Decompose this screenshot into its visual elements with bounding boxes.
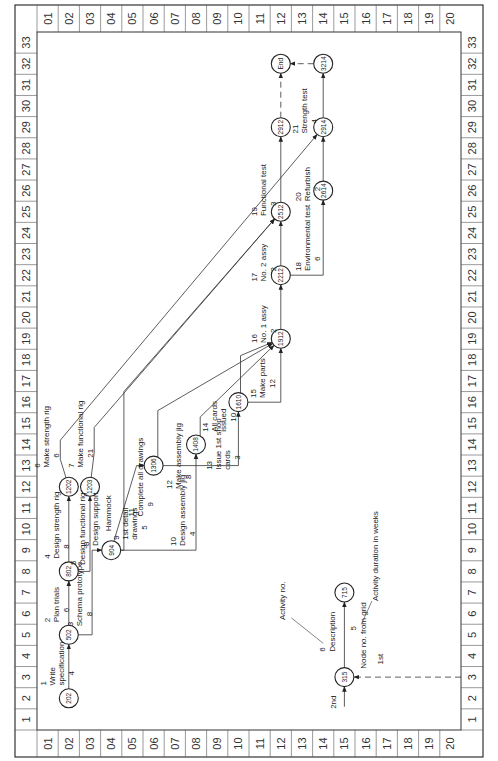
row-label-right: 14 <box>317 12 329 24</box>
hammock-label: Hammock <box>104 494 113 531</box>
column-label-bottom: 4 <box>466 653 478 659</box>
column-label-top: 25 <box>20 206 32 218</box>
column-label-top: 30 <box>20 100 32 112</box>
activity-duration: 2 <box>269 328 278 333</box>
activity-number: 6 <box>33 463 42 468</box>
activity-number: 10 <box>169 537 178 546</box>
activity-duration: 10 <box>229 412 238 421</box>
activity-duration: 8 <box>62 544 71 549</box>
legend-node-to_node: 715 <box>335 583 354 602</box>
activity-duration: 9 <box>146 501 155 506</box>
row-label-left: 02 <box>63 737 75 749</box>
row-label-right: 01 <box>42 12 54 24</box>
node-number: 1306 <box>150 458 157 473</box>
activity-duration: 8 <box>184 474 193 479</box>
activity-duration: 21 <box>86 448 95 457</box>
legend-activity-no: 6 <box>318 647 327 652</box>
row-label-left: 14 <box>317 737 329 749</box>
column-label-top: 26 <box>20 185 32 197</box>
legend-first: 1st <box>376 653 385 664</box>
activity-network-diagram: 1122334455667788991010111112121313141415… <box>0 0 498 761</box>
node-number: 2912 <box>277 120 284 135</box>
node-1408: 1408 <box>187 435 206 454</box>
row-label-right: 04 <box>105 12 117 24</box>
activity-description: Design strength rig <box>52 492 61 559</box>
column-label-top: 33 <box>20 36 32 48</box>
activity-description: All cards <box>210 401 219 432</box>
column-label-top: 20 <box>20 311 32 323</box>
node-number: 1202 <box>65 479 72 494</box>
column-label-bottom: 32 <box>466 58 478 70</box>
column-label-bottom: 29 <box>466 121 478 133</box>
activity-duration: 6 <box>62 607 71 612</box>
row-label-right: 17 <box>381 12 393 24</box>
row-label-left: 13 <box>296 737 308 749</box>
legend-callout-node: Node no. from grid <box>359 602 368 668</box>
column-label-bottom: 15 <box>466 417 478 429</box>
node-number: 202 <box>65 692 72 703</box>
column-label-bottom: 12 <box>466 481 478 493</box>
column-label-top: 4 <box>20 653 32 659</box>
row-label-left: 11 <box>254 738 266 749</box>
activity-number: 19 <box>250 207 259 216</box>
column-label-top: 7 <box>20 589 32 595</box>
row-label-right: 12 <box>275 12 287 24</box>
row-label-left: 06 <box>148 737 160 749</box>
activity-description: Environmental test <box>303 204 312 271</box>
legend: 3157156Description5Activity no.Activity … <box>278 511 461 709</box>
legend-second: 2nd <box>329 695 338 708</box>
node-number: 3214 <box>320 56 327 71</box>
activity-description: Refurbish <box>303 167 312 201</box>
row-label-left: 05 <box>126 737 138 749</box>
activity-description: issued <box>219 409 228 432</box>
column-label-top: 5 <box>20 632 32 638</box>
activity-number: 13 <box>205 460 214 469</box>
node-number: End <box>277 58 284 70</box>
column-label-bottom: 7 <box>466 589 478 595</box>
activity-description: cards <box>223 450 232 470</box>
activity-number: 5 <box>69 560 78 565</box>
node-number: 2212 <box>277 268 284 283</box>
node-1306: 1306 <box>144 456 163 475</box>
column-label-bottom: 14 <box>466 438 478 450</box>
column-label-bottom: 3 <box>466 674 478 680</box>
callout-line <box>291 618 323 643</box>
activity-number: 8 <box>82 541 91 546</box>
activity-description: Functional test <box>259 163 268 216</box>
column-label-top: 8 <box>20 568 32 574</box>
column-label-top: 18 <box>20 354 32 366</box>
activity-number: 9 <box>112 535 121 540</box>
activity-duration: 4 <box>67 671 76 676</box>
column-label-bottom: 31 <box>466 79 478 91</box>
row-label-left: 15 <box>338 737 350 749</box>
activity-number: 20 <box>294 192 303 201</box>
row-label-right: 19 <box>423 12 435 24</box>
node-3214: 3214 <box>314 54 333 73</box>
activity-number: 7 <box>67 463 76 468</box>
column-label-top: 24 <box>20 227 32 239</box>
row-label-right: 18 <box>402 12 414 24</box>
activity-description: Make assembly jig <box>174 423 183 489</box>
node-904: 904 <box>102 541 121 560</box>
network-svg: 1122334455667788991010111112121313141415… <box>0 0 498 761</box>
activity-duration: 5 <box>140 525 149 530</box>
column-label-top: 19 <box>20 333 32 345</box>
row-label-right: 20 <box>444 12 456 24</box>
node-number: 2512 <box>277 204 284 219</box>
activity-number: 15 <box>249 388 258 397</box>
activity-arrow-6 <box>60 135 317 478</box>
column-label-top: 10 <box>20 523 32 535</box>
activity-description: Plan trials <box>52 587 61 622</box>
column-label-bottom: 33 <box>466 36 478 48</box>
row-label-left: 19 <box>423 737 435 749</box>
column-label-top: 6 <box>20 611 32 617</box>
activity-description: Strength test <box>300 87 309 133</box>
row-label-left: 03 <box>84 737 96 749</box>
legend-description: Description <box>328 612 337 652</box>
activity-description: Design support <box>91 491 100 546</box>
column-label-top: 13 <box>20 459 32 471</box>
activity-duration: 4 <box>188 531 197 536</box>
column-label-bottom: 19 <box>466 333 478 345</box>
activity-number: 14 <box>201 422 210 431</box>
node-number: 2914 <box>320 120 327 135</box>
